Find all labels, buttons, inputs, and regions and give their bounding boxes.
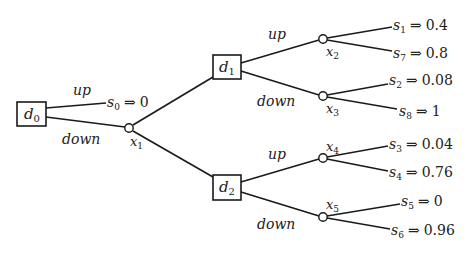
- edge-d1-x3: [241, 71, 319, 95]
- chance-node-x3: x3: [319, 92, 340, 118]
- outcome-s4: s4⇒0.76: [389, 164, 453, 182]
- edge-d2-x5: [241, 192, 319, 216]
- svg-text:s4⇒0.76: s4⇒0.76: [389, 164, 453, 182]
- edge-x3-s2: [327, 84, 388, 95]
- edge-label-d1-down: down: [257, 93, 295, 109]
- svg-text:x2: x2: [326, 44, 339, 61]
- edge-label-d2-down: down: [257, 216, 295, 232]
- svg-text:s6⇒0.96: s6⇒0.96: [391, 222, 455, 240]
- outcome-s0: s0⇒0: [107, 94, 149, 112]
- outcome-s1: s1⇒0.4: [393, 17, 448, 35]
- edge-d1-x2: [241, 40, 319, 63]
- edge-x5-s6: [327, 218, 390, 229]
- decision-node-d1: d1: [213, 55, 241, 79]
- edge-label-d0-up: up: [73, 82, 91, 98]
- outcome-s2: s2⇒0.08: [389, 72, 453, 90]
- svg-text:s8⇒1: s8⇒1: [399, 103, 441, 121]
- edge-x2-s7: [327, 40, 392, 51]
- outcome-s7: s7⇒0.8: [393, 45, 448, 63]
- decision-node-d0: d0: [17, 102, 46, 126]
- svg-text:x5: x5: [326, 197, 339, 214]
- svg-text:x3: x3: [326, 101, 339, 118]
- svg-text:x4: x4: [326, 139, 339, 156]
- outcome-s6: s6⇒0.96: [391, 222, 455, 240]
- edge-d0-x1: [46, 117, 125, 127]
- outcome-s5: s5⇒0: [401, 193, 443, 211]
- edge-label-d1-up: up: [268, 26, 286, 42]
- edge-x1-d2: [133, 131, 213, 177]
- edge-d0-s0: [46, 103, 106, 108]
- svg-text:s0⇒0: s0⇒0: [107, 94, 149, 112]
- outcome-s3: s3⇒0.04: [389, 136, 453, 154]
- svg-text:s7⇒0.8: s7⇒0.8: [393, 45, 448, 63]
- chance-node-x1: x1: [125, 124, 143, 151]
- svg-text:s3⇒0.04: s3⇒0.04: [389, 136, 453, 154]
- edge-label-d2-up: up: [268, 146, 286, 162]
- edge-label-d0-down: down: [62, 131, 100, 147]
- edge-x4-s4: [327, 159, 388, 171]
- svg-text:s2⇒0.08: s2⇒0.08: [389, 72, 453, 90]
- decision-node-d2: d2: [213, 175, 241, 200]
- decision-tree-diagram: d0 d1 d2 x1 x2 x3 x4 x5 up down up down …: [0, 0, 471, 253]
- svg-text:s1⇒0.4: s1⇒0.4: [393, 17, 448, 35]
- edge-x2-s1: [327, 27, 392, 38]
- svg-text:s5⇒0: s5⇒0: [401, 193, 443, 211]
- edge-d2-x4: [241, 159, 319, 182]
- chance-node-x2: x2: [319, 35, 339, 61]
- outcome-s8: s8⇒1: [399, 103, 441, 121]
